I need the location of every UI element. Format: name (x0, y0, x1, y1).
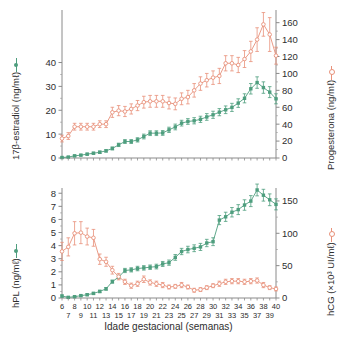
top-panel-left-tick-label: 20 (45, 105, 56, 116)
x-tick-label-15: 15 (114, 311, 122, 320)
x-tick-label-18: 18 (133, 302, 141, 311)
bottom-panel-left-tick-label: 4 (51, 240, 56, 251)
x-tick-label-37: 37 (253, 311, 261, 320)
x-tick-label-21: 21 (152, 311, 160, 320)
x-tick-label-38: 38 (259, 302, 267, 311)
x-tick-label-17: 17 (127, 311, 135, 320)
x-tick-label-11: 11 (90, 311, 98, 320)
x-tick-label-28: 28 (196, 302, 204, 311)
x-tick-label-35: 35 (240, 311, 248, 320)
x-tick-label-34: 34 (234, 302, 242, 311)
top-panel-left-tick-label: 10 (45, 129, 56, 140)
x-tick-label-33: 33 (228, 311, 236, 320)
series-progesteronangm (60, 13, 278, 142)
bottom-panel-left-tick-label: 3 (51, 253, 56, 264)
x-tick-label-6: 6 (60, 302, 64, 311)
top-panel-left-tick-label: 30 (45, 81, 56, 92)
x-tick-label-14: 14 (108, 302, 116, 311)
top-panel-left-tick-label: 40 (45, 57, 56, 68)
x-axis-title: Idade gestacional (semanas) (0, 321, 337, 332)
x-tick-label-16: 16 (121, 302, 129, 311)
x-tick-label-40: 40 (272, 302, 280, 311)
bottom-panel-right-tick-label: 150 (282, 195, 298, 206)
x-tick-label-25: 25 (177, 311, 185, 320)
x-tick-label-13: 13 (102, 311, 110, 320)
bottom-panel-right-tick-label: 50 (282, 260, 293, 271)
x-tick-label-31: 31 (215, 311, 223, 320)
x-tick-label-30: 30 (209, 302, 217, 311)
top-panel-right-tick-label: 40 (282, 119, 293, 130)
top-panel-right-tick-label: 80 (282, 85, 293, 96)
top-panel-right-tick-label: 0 (282, 152, 287, 163)
x-tick-label-7: 7 (66, 311, 70, 320)
x-tick-label-23: 23 (165, 311, 173, 320)
top-panel-right-tick-label: 120 (282, 51, 298, 62)
bottom-panel-right-tick-label: 100 (282, 228, 298, 239)
bottom-panel-left-tick-label: 5 (51, 227, 56, 238)
x-tick-label-27: 27 (190, 311, 198, 320)
x-tick-label-10: 10 (83, 302, 91, 311)
x-tick-label-39: 39 (266, 311, 274, 320)
x-tick-label-12: 12 (96, 302, 104, 311)
top-panel: 17β-estradiol (ng/mℓ) Progesterona (ng/m… (0, 0, 337, 176)
x-tick-label-32: 32 (221, 302, 229, 311)
x-tick-label-29: 29 (203, 311, 211, 320)
x-tick-label-19: 19 (140, 311, 148, 320)
bottom-panel-left-tick-label: 2 (51, 266, 56, 277)
top-panel-left-tick-label: 0 (51, 152, 56, 163)
x-tick-label-26: 26 (184, 302, 192, 311)
x-tick-label-36: 36 (247, 302, 255, 311)
series-estradiolngm (60, 77, 278, 159)
top-panel-right-tick-label: 100 (282, 68, 298, 79)
top-panel-plot: 010203040020406080100120140160 (0, 0, 337, 176)
series-hcguim (60, 222, 278, 293)
bottom-panel-plot: 0123456780501001506789101112131415161718… (0, 176, 337, 336)
bottom-panel-right-tick-label: 0 (282, 292, 287, 303)
bottom-panel-left-tick-label: 6 (51, 214, 56, 225)
x-tick-label-24: 24 (171, 302, 179, 311)
bottom-panel-left-tick-label: 1 (51, 279, 56, 290)
x-tick-label-20: 20 (146, 302, 154, 311)
top-panel-right-tick-label: 60 (282, 102, 293, 113)
hormone-levels-figure: 17β-estradiol (ng/mℓ) Progesterona (ng/m… (0, 0, 337, 361)
bottom-panel: hPL (ng/mℓ) hCG (×10³ UI/mℓ) 01234567805… (0, 176, 337, 336)
bottom-panel-left-tick-label: 8 (51, 188, 56, 199)
top-panel-right-tick-label: 20 (282, 135, 293, 146)
top-panel-right-tick-label: 140 (282, 34, 298, 45)
bottom-panel-left-tick-label: 7 (51, 201, 56, 212)
bottom-panel-left-tick-label: 0 (51, 292, 56, 303)
x-tick-label-8: 8 (73, 302, 77, 311)
top-panel-right-tick-label: 160 (282, 17, 298, 28)
x-tick-label-22: 22 (159, 302, 167, 311)
x-tick-label-9: 9 (79, 311, 83, 320)
